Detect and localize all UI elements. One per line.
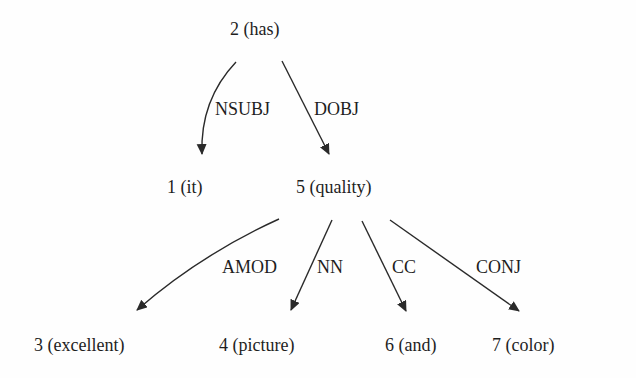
node-5-quality: 5 (quality): [296, 178, 371, 196]
edge-label-nn: NN: [317, 258, 343, 276]
edge-label-cc: CC: [392, 258, 416, 276]
node-6-and: 6 (and): [385, 336, 436, 354]
edge-label-conj: CONJ: [476, 258, 521, 276]
node-3-excellent: 3 (excellent): [34, 336, 124, 354]
node-1-it: 1 (it): [167, 178, 203, 196]
edge-label-nsubj: NSUBJ: [215, 100, 270, 118]
node-2-has: 2 (has): [230, 20, 279, 38]
edge-label-dobj: DOBJ: [314, 100, 359, 118]
edge-label-amod: AMOD: [222, 258, 277, 276]
node-4-picture: 4 (picture): [219, 336, 294, 354]
node-7-color: 7 (color): [492, 336, 554, 354]
dependency-tree-diagram: 2 (has) 1 (it) 5 (quality) 3 (excellent)…: [0, 0, 636, 378]
